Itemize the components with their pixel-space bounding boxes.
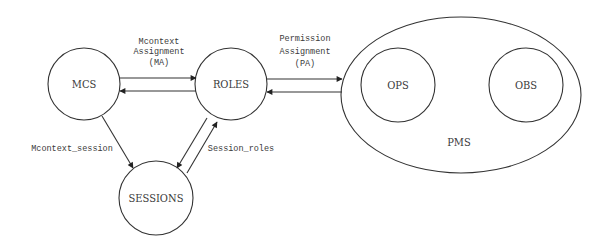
pa-edge: Permission Assignment (PA) [267, 34, 342, 92]
roles-node: ROLES [195, 48, 267, 120]
obs-node: OBS [489, 48, 563, 122]
ma-label-line1: Mcontext [139, 37, 180, 47]
roles-label: ROLES [213, 78, 249, 91]
sessions-node: SESSIONS [119, 161, 193, 235]
obs-label: OBS [515, 79, 537, 92]
ma-label-line3: (MA) [149, 58, 169, 68]
mcontext-session-arrow [102, 116, 133, 168]
pms-label: PMS [447, 136, 471, 149]
mcontext-session-label: Mcontext_session [31, 144, 113, 154]
mcontext-session-edge: Mcontext_session [31, 116, 133, 168]
ma-label-line2: Assignment [133, 47, 184, 57]
session-roles-edge: Session_roles [177, 118, 274, 173]
mcs-node: MCS [48, 48, 120, 120]
mcs-label: MCS [72, 78, 97, 91]
pa-label-line2: Assignment [279, 47, 330, 57]
ops-label: OPS [387, 79, 409, 92]
session-roles-label: Session_roles [208, 144, 274, 154]
ma-edge: Mcontext Assignment (MA) [120, 37, 196, 91]
pa-label-line3: (PA) [295, 59, 315, 69]
ops-node: OPS [361, 48, 435, 122]
pa-label-line1: Permission [279, 34, 330, 44]
sessions-label: SESSIONS [129, 192, 184, 205]
roles-to-sessions-arrow [177, 118, 207, 168]
rbac-diagram: PMS OPS OBS MCS ROLES SESSIONS Mcontext … [0, 0, 608, 251]
